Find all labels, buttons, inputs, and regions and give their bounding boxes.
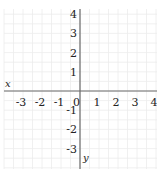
y-tick-label: 1 [70, 66, 77, 79]
y-tick-label: 4 [70, 8, 77, 21]
x-tick-labels: -3-2-101234 [16, 96, 157, 109]
x-tick-label: 2 [113, 96, 120, 109]
y-tick-label: -1 [66, 104, 77, 117]
y-tick-label: 2 [70, 47, 77, 60]
x-tick-label: -2 [35, 96, 46, 109]
x-axis-label: x [5, 78, 11, 89]
y-axis-label: y [82, 152, 89, 163]
y-tick-label: -3 [66, 143, 77, 156]
y-tick-label: -2 [66, 123, 77, 136]
x-tick-label: 3 [132, 96, 139, 109]
y-tick-label: 3 [70, 27, 77, 40]
coordinate-plane: -3-2-101234 4321-1-2-3 x y [0, 0, 157, 170]
y-tick-labels: 4321-1-2-3 [66, 8, 77, 155]
x-tick-label: 4 [151, 96, 158, 109]
x-tick-label: -1 [54, 96, 65, 109]
x-tick-label: 1 [94, 96, 101, 109]
x-tick-label: -3 [16, 96, 27, 109]
